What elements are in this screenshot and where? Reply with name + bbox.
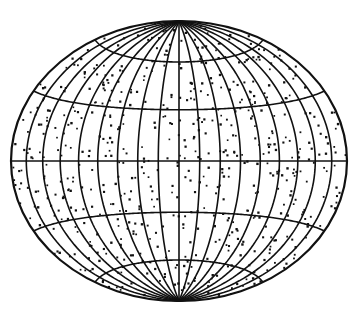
data-point bbox=[47, 125, 49, 127]
data-point bbox=[313, 116, 315, 118]
data-point bbox=[120, 238, 122, 240]
data-point bbox=[235, 135, 237, 137]
data-point bbox=[70, 207, 72, 209]
data-point bbox=[269, 172, 271, 174]
data-point bbox=[46, 120, 48, 122]
data-point bbox=[287, 214, 289, 216]
data-point bbox=[72, 177, 74, 179]
data-point bbox=[141, 223, 143, 225]
data-point bbox=[263, 153, 265, 155]
data-point bbox=[147, 39, 149, 41]
data-point bbox=[177, 161, 179, 163]
data-point bbox=[268, 137, 270, 139]
data-point bbox=[117, 272, 119, 274]
data-point bbox=[297, 151, 299, 153]
data-point bbox=[132, 254, 134, 256]
data-point bbox=[260, 109, 262, 111]
data-point bbox=[252, 277, 254, 279]
data-point bbox=[171, 96, 173, 98]
data-point bbox=[35, 114, 37, 116]
data-point bbox=[199, 181, 201, 183]
data-point bbox=[67, 218, 69, 220]
data-point bbox=[281, 174, 283, 176]
data-point bbox=[29, 148, 31, 150]
data-point bbox=[267, 163, 269, 165]
data-point bbox=[242, 285, 244, 287]
data-point bbox=[334, 112, 336, 114]
data-point bbox=[276, 171, 278, 173]
data-point bbox=[155, 232, 157, 234]
data-point bbox=[243, 162, 245, 164]
data-point bbox=[258, 48, 260, 50]
data-point bbox=[272, 132, 274, 134]
data-point bbox=[268, 146, 270, 148]
data-point bbox=[289, 194, 291, 196]
data-point bbox=[241, 243, 243, 245]
data-point bbox=[178, 215, 180, 217]
data-point bbox=[257, 191, 259, 193]
data-point bbox=[265, 226, 267, 228]
data-point bbox=[164, 276, 166, 278]
data-point bbox=[207, 285, 209, 287]
data-point bbox=[132, 233, 134, 235]
data-point bbox=[61, 219, 63, 221]
data-point bbox=[136, 91, 138, 93]
data-point bbox=[263, 49, 265, 51]
data-point bbox=[159, 280, 161, 282]
data-point bbox=[119, 69, 121, 71]
data-point bbox=[143, 158, 145, 160]
data-point bbox=[274, 262, 276, 264]
data-point bbox=[278, 170, 280, 172]
data-point bbox=[123, 114, 125, 116]
data-point bbox=[173, 29, 175, 31]
data-point bbox=[142, 260, 144, 262]
data-point bbox=[110, 242, 112, 244]
data-point bbox=[304, 218, 306, 220]
data-point bbox=[99, 135, 101, 137]
data-point bbox=[70, 147, 72, 149]
data-point bbox=[311, 148, 313, 150]
data-point bbox=[29, 217, 31, 219]
data-point bbox=[177, 165, 179, 167]
data-point bbox=[44, 86, 46, 88]
data-point bbox=[64, 197, 66, 199]
data-point bbox=[44, 175, 46, 177]
data-point bbox=[38, 124, 40, 126]
data-point bbox=[207, 292, 209, 294]
data-point bbox=[39, 224, 41, 226]
data-point bbox=[130, 282, 132, 284]
data-point bbox=[91, 268, 93, 270]
data-point bbox=[146, 67, 148, 69]
data-point bbox=[138, 205, 140, 207]
data-point bbox=[221, 168, 223, 170]
data-point bbox=[23, 149, 25, 151]
data-point bbox=[184, 176, 186, 178]
data-point bbox=[67, 189, 69, 191]
data-point bbox=[325, 136, 327, 138]
data-point bbox=[77, 111, 79, 113]
data-point bbox=[107, 142, 109, 144]
data-point bbox=[234, 110, 236, 112]
data-point bbox=[169, 139, 171, 141]
data-point bbox=[65, 145, 67, 147]
data-point bbox=[273, 56, 275, 58]
data-point bbox=[122, 266, 124, 268]
data-point bbox=[55, 194, 57, 196]
data-point bbox=[179, 97, 181, 99]
data-point bbox=[78, 164, 80, 166]
data-point bbox=[154, 126, 156, 128]
data-point bbox=[331, 112, 333, 114]
data-point bbox=[98, 260, 100, 262]
data-point bbox=[151, 190, 153, 192]
data-point bbox=[194, 280, 196, 282]
data-point bbox=[71, 58, 73, 60]
data-point bbox=[109, 114, 111, 116]
data-point bbox=[226, 244, 228, 246]
data-point bbox=[47, 109, 49, 111]
data-point bbox=[258, 216, 260, 218]
data-point bbox=[35, 191, 37, 193]
data-point bbox=[326, 170, 328, 172]
data-point bbox=[304, 86, 306, 88]
data-point bbox=[294, 175, 296, 177]
data-point bbox=[117, 44, 119, 46]
